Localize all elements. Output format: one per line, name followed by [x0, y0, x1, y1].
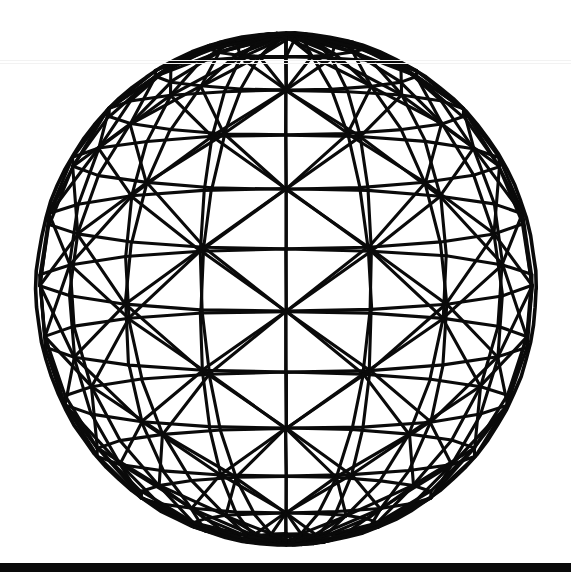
scan-artifact-line-2	[0, 63, 571, 64]
baseline-rule	[0, 563, 571, 572]
wireframe-sphere-figure	[0, 0, 571, 578]
scan-artifact-line-1	[0, 60, 571, 61]
figure-page	[0, 0, 571, 578]
sphere-mesh	[40, 33, 533, 545]
